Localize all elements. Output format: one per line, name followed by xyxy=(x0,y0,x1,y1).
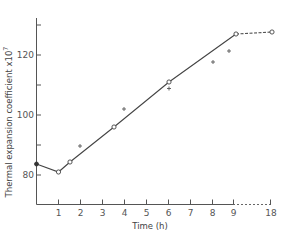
plus-marker xyxy=(211,60,215,64)
y-axis-title: Thermal expansion coefficient x107 xyxy=(2,47,14,199)
svg-text:Thermal expansion coefficient: Thermal expansion coefficient x107 xyxy=(2,47,14,199)
x-axis-title: Time (h) xyxy=(131,221,168,231)
open-circle-marker xyxy=(234,32,238,36)
x-tick-label-6: 6 xyxy=(166,208,172,218)
x-tick-label-2: 2 xyxy=(78,208,84,218)
x-tick-label-3: 3 xyxy=(100,208,106,218)
x-tick-label-8: 8 xyxy=(210,208,216,218)
open-circle-marker xyxy=(112,125,116,129)
y-axis-title-exponent: 7 xyxy=(2,47,10,51)
open-circle-marker xyxy=(56,170,60,174)
x-tick-label-18: 18 xyxy=(265,208,277,218)
x-tick-label-9: 9 xyxy=(231,208,237,218)
fit-line-series xyxy=(37,32,273,172)
y-tick-label-120: 120 xyxy=(17,50,34,60)
chart: 120 100 80 1 2 3 4 5 6 7 8 9 18 Time (h)… xyxy=(0,0,281,238)
open-circle-marker xyxy=(167,80,171,84)
y-tick-label-100: 100 xyxy=(17,110,34,120)
plus-marker xyxy=(78,144,82,148)
filled-circle-marker xyxy=(35,162,39,166)
x-axis: 1 2 3 4 5 6 7 8 9 18 xyxy=(37,200,277,219)
y-tick-label-80: 80 xyxy=(23,170,35,180)
open-circle-markers xyxy=(56,30,274,174)
x-tick-label-1: 1 xyxy=(56,208,62,218)
y-axis-title-text: Thermal expansion coefficient x10 xyxy=(4,51,14,199)
x-tick-label-4: 4 xyxy=(122,208,128,218)
plus-markers xyxy=(78,49,231,148)
x-tick-label-5: 5 xyxy=(144,208,150,218)
plus-marker xyxy=(122,107,126,111)
plus-marker xyxy=(167,87,171,91)
x-tick-label-7: 7 xyxy=(188,208,194,218)
open-circle-marker xyxy=(68,160,72,164)
open-circle-marker xyxy=(270,30,274,34)
plus-marker xyxy=(227,49,231,53)
y-axis: 120 100 80 xyxy=(17,18,41,205)
